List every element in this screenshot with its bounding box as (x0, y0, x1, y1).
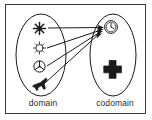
snowflake-icon (34, 23, 46, 35)
sun-icon (34, 42, 46, 54)
mapping-arrows (45, 28, 102, 84)
clock-icon (105, 21, 118, 34)
arrow-line-snowflake (48, 28, 102, 29)
codomain-label: codomain (88, 98, 142, 108)
plus-icon (104, 61, 122, 79)
domain-label: domain (18, 98, 68, 108)
fan-icon (34, 61, 45, 72)
arrow-line-fan (47, 32, 101, 67)
function-mapping-figure: domain codomain (0, 0, 152, 120)
arrow-line-airplane (45, 33, 100, 83)
airplane-icon (33, 78, 48, 90)
